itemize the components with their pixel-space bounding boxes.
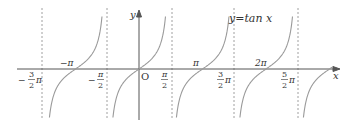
y-axis-arrow-icon — [137, 10, 142, 17]
tick-3-2-pi: 3 2 π — [217, 70, 232, 90]
svg-text:π: π — [161, 70, 168, 79]
tick-neg-3-2-pi: − 3 2 π — [18, 70, 43, 90]
origin-label: O — [141, 71, 149, 82]
svg-text:π: π — [35, 75, 43, 85]
tan-branch — [303, 67, 333, 118]
tick-neg-pi-2: − π 2 — [88, 70, 104, 90]
svg-text:π: π — [224, 75, 232, 85]
svg-text:2: 2 — [282, 81, 287, 90]
svg-text:−: − — [18, 75, 26, 85]
tick-5-2-pi: 5 2 π — [281, 70, 296, 90]
svg-text:5: 5 — [282, 70, 287, 79]
svg-text:2: 2 — [218, 81, 223, 90]
svg-text:3: 3 — [218, 70, 223, 79]
tick-pi-2: π 2 — [161, 70, 168, 90]
svg-text:2: 2 — [29, 81, 34, 90]
y-axis-label: y — [129, 9, 136, 20]
svg-text:3: 3 — [29, 70, 34, 79]
svg-text:π: π — [97, 70, 104, 79]
svg-text:π: π — [288, 75, 296, 85]
function-label: y=tan x — [228, 12, 273, 25]
x-axis-label: x — [333, 70, 339, 81]
tick-2pi: 2π — [254, 58, 268, 68]
svg-text:2: 2 — [98, 81, 103, 90]
tan-branch — [176, 17, 229, 118]
tick-pi: π — [192, 58, 200, 68]
tan-curves — [49, 17, 333, 118]
tick-neg-pi: −π — [60, 58, 75, 68]
svg-text:2: 2 — [162, 81, 167, 90]
tan-graph: y=tan x y x O −π π 2π − 3 2 π − π 2 π 2 … — [0, 0, 347, 128]
tan-branch — [49, 17, 102, 118]
svg-text:−: − — [88, 75, 96, 85]
